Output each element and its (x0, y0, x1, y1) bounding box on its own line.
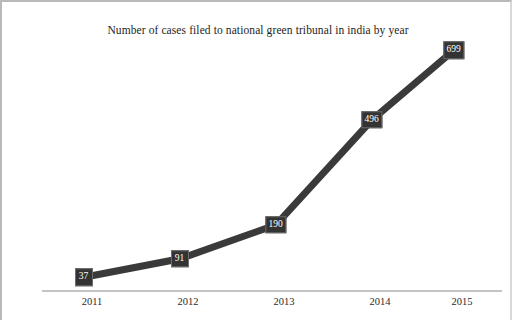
data-point-marker: 496 (361, 111, 382, 129)
x-tick-label-2012: 2012 (178, 296, 199, 307)
x-tick-label-2013: 2013 (274, 296, 295, 307)
data-point-marker: 91 (171, 250, 189, 268)
series-line-cases (84, 50, 454, 277)
data-point-marker: 37 (75, 269, 93, 287)
x-tick-label-2011: 2011 (82, 296, 103, 307)
x-tick-label-2015: 2015 (452, 296, 473, 307)
chart-frame: Number of cases filed to national green … (0, 0, 512, 320)
x-tick-label-2014: 2014 (370, 296, 391, 307)
data-point-marker: 699 (443, 41, 464, 59)
x-axis-line (42, 290, 502, 292)
chart-title: Number of cases filed to national green … (2, 24, 512, 36)
data-point-marker: 190 (265, 216, 286, 234)
